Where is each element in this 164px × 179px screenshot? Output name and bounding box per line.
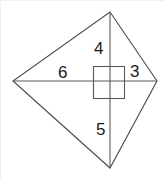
right-angle-square-marker [94,67,125,99]
label-top-segment: 4 [94,40,103,57]
label-right-segment: 3 [130,63,139,80]
kite-diagram-svg [0,0,164,179]
geometry-figure-canvas: 4 6 3 5 [0,0,164,179]
label-bottom-segment: 5 [96,121,105,138]
label-left-segment: 6 [58,64,67,81]
kite-outline [13,12,157,168]
